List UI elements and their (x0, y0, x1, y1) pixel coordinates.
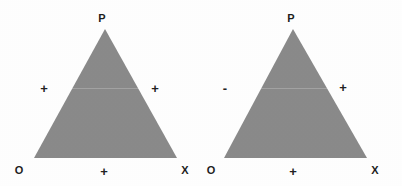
right-panel-right-edge-sign: + (339, 81, 347, 94)
right-bottom-left-label-o: O (207, 165, 216, 176)
right-triangle-panel: P O X - + + (201, 0, 402, 186)
left-bottom-right-label-x: X (181, 165, 188, 176)
left-apex-label-p: P (98, 13, 105, 24)
left-panel-right-edge-sign: + (151, 82, 159, 95)
left-triangle-shape (0, 0, 201, 186)
right-panel-bottom-edge-sign: + (289, 165, 297, 178)
left-bottom-left-label-o: O (15, 165, 24, 176)
right-apex-label-p: P (287, 13, 294, 24)
left-panel-left-edge-sign: + (40, 82, 48, 95)
left-triangle-panel: P O X + + + (0, 0, 201, 186)
figure-canvas: P O X + + + P O X - + + (0, 0, 402, 186)
right-bottom-right-label-x: X (371, 165, 378, 176)
right-triangle-shape (201, 0, 402, 186)
right-panel-left-edge-sign: - (223, 82, 227, 95)
left-panel-bottom-edge-sign: + (100, 165, 108, 178)
